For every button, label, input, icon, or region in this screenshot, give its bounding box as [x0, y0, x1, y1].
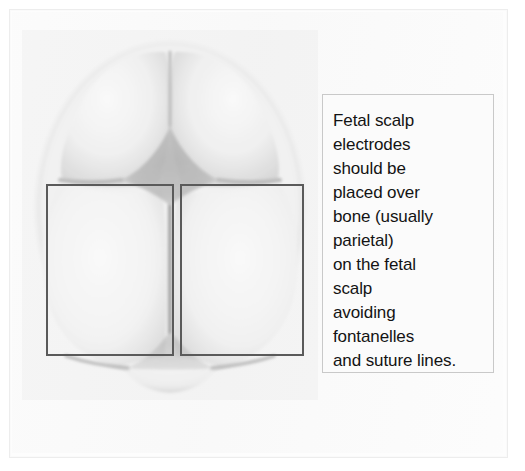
- caption-line: scalp: [333, 277, 487, 301]
- caption-line: placed over: [333, 181, 487, 205]
- caption-line: should be: [333, 157, 487, 181]
- caption-text: Fetal scalp electrodes should be placed …: [333, 109, 487, 373]
- caption-line: electrodes: [333, 133, 487, 157]
- parietal-placement-box-left: [46, 184, 174, 356]
- caption-line: and suture lines.: [333, 349, 487, 373]
- caption-box: Fetal scalp electrodes should be placed …: [322, 94, 494, 373]
- parietal-placement-box-right: [180, 184, 304, 356]
- caption-line: parietal): [333, 229, 487, 253]
- caption-line: on the fetal: [333, 253, 487, 277]
- figure-root: NEVER PLACE Fetal scalp electrodes shoul…: [0, 0, 525, 471]
- caption-line: bone (usually: [333, 205, 487, 229]
- caption-line: avoiding: [333, 301, 487, 325]
- caption-line: Fetal scalp: [333, 109, 487, 133]
- caption-line: fontanelles: [333, 325, 487, 349]
